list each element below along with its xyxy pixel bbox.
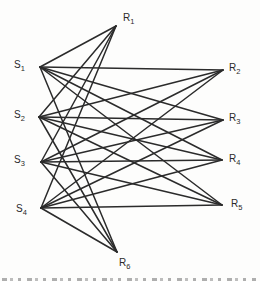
edge-S3-R2 <box>41 70 223 162</box>
edges-layer <box>0 0 260 281</box>
bipartite-graph-figure: S1S2S3S4R1R2R3R4R5R6 <box>0 0 260 281</box>
edge-S4-R5 <box>41 205 222 208</box>
edge-S2-R4 <box>39 117 222 160</box>
edge-S2-R2 <box>39 70 223 117</box>
edge-S1-R2 <box>40 67 223 70</box>
edge-S3-R4 <box>41 160 222 162</box>
edge-S4-R2 <box>41 70 223 208</box>
edge-S2-R3 <box>39 117 223 120</box>
edge-S2-R1 <box>39 26 116 117</box>
edge-S4-R6 <box>41 208 117 252</box>
